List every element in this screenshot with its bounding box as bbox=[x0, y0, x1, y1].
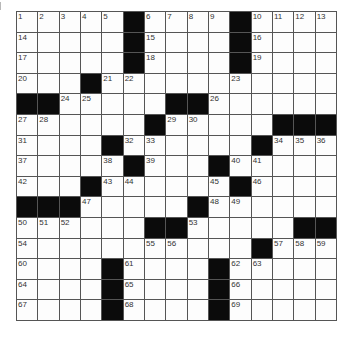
grid-cell[interactable] bbox=[273, 300, 293, 320]
grid-cell[interactable]: 42 bbox=[17, 177, 37, 197]
grid-cell[interactable]: 10 bbox=[252, 12, 272, 32]
grid-cell[interactable] bbox=[273, 197, 293, 217]
grid-cell[interactable]: 27 bbox=[17, 115, 37, 135]
grid-cell[interactable]: 57 bbox=[273, 239, 293, 259]
grid-cell[interactable]: 35 bbox=[294, 136, 314, 156]
grid-cell[interactable]: 63 bbox=[252, 259, 272, 279]
grid-cell[interactable]: 33 bbox=[145, 136, 165, 156]
grid-cell[interactable] bbox=[166, 259, 186, 279]
grid-cell[interactable] bbox=[188, 136, 208, 156]
grid-cell[interactable]: 11 bbox=[273, 12, 293, 32]
grid-cell[interactable] bbox=[166, 197, 186, 217]
grid-cell[interactable]: 32 bbox=[124, 136, 144, 156]
grid-cell[interactable] bbox=[124, 239, 144, 259]
grid-cell[interactable] bbox=[81, 280, 101, 300]
grid-cell[interactable] bbox=[102, 218, 122, 238]
grid-cell[interactable]: 7 bbox=[166, 12, 186, 32]
grid-cell[interactable]: 50 bbox=[17, 218, 37, 238]
grid-cell[interactable] bbox=[252, 300, 272, 320]
grid-cell[interactable] bbox=[81, 136, 101, 156]
grid-cell[interactable] bbox=[209, 33, 229, 53]
grid-cell[interactable] bbox=[209, 115, 229, 135]
grid-cell[interactable]: 37 bbox=[17, 156, 37, 176]
grid-cell[interactable] bbox=[188, 177, 208, 197]
grid-cell[interactable]: 53 bbox=[188, 218, 208, 238]
grid-cell[interactable] bbox=[38, 259, 58, 279]
grid-cell[interactable] bbox=[102, 33, 122, 53]
grid-cell[interactable] bbox=[81, 218, 101, 238]
grid-cell[interactable] bbox=[81, 156, 101, 176]
grid-cell[interactable]: 31 bbox=[17, 136, 37, 156]
grid-cell[interactable] bbox=[273, 74, 293, 94]
grid-cell[interactable]: 2 bbox=[38, 12, 58, 32]
grid-cell[interactable] bbox=[209, 239, 229, 259]
grid-cell[interactable] bbox=[38, 33, 58, 53]
grid-cell[interactable] bbox=[252, 218, 272, 238]
grid-cell[interactable] bbox=[316, 156, 336, 176]
grid-cell[interactable] bbox=[81, 115, 101, 135]
grid-cell[interactable] bbox=[273, 94, 293, 114]
grid-cell[interactable] bbox=[294, 53, 314, 73]
grid-cell[interactable] bbox=[145, 280, 165, 300]
grid-cell[interactable] bbox=[188, 53, 208, 73]
grid-cell[interactable] bbox=[60, 300, 80, 320]
grid-cell[interactable] bbox=[188, 74, 208, 94]
grid-cell[interactable] bbox=[294, 94, 314, 114]
grid-cell[interactable] bbox=[145, 94, 165, 114]
grid-cell[interactable] bbox=[60, 33, 80, 53]
grid-cell[interactable]: 46 bbox=[252, 177, 272, 197]
grid-cell[interactable] bbox=[166, 280, 186, 300]
grid-cell[interactable] bbox=[273, 177, 293, 197]
grid-cell[interactable] bbox=[124, 94, 144, 114]
grid-cell[interactable]: 8 bbox=[188, 12, 208, 32]
grid-cell[interactable]: 39 bbox=[145, 156, 165, 176]
grid-cell[interactable] bbox=[294, 300, 314, 320]
grid-cell[interactable] bbox=[209, 74, 229, 94]
grid-cell[interactable] bbox=[294, 280, 314, 300]
grid-cell[interactable]: 45 bbox=[209, 177, 229, 197]
grid-cell[interactable] bbox=[38, 74, 58, 94]
grid-cell[interactable] bbox=[316, 53, 336, 73]
grid-cell[interactable]: 9 bbox=[209, 12, 229, 32]
grid-cell[interactable]: 19 bbox=[252, 53, 272, 73]
grid-cell[interactable]: 68 bbox=[124, 300, 144, 320]
grid-cell[interactable]: 38 bbox=[102, 156, 122, 176]
grid-cell[interactable]: 28 bbox=[38, 115, 58, 135]
grid-cell[interactable]: 12 bbox=[294, 12, 314, 32]
grid-cell[interactable]: 23 bbox=[230, 74, 250, 94]
grid-cell[interactable] bbox=[102, 115, 122, 135]
grid-cell[interactable]: 64 bbox=[17, 280, 37, 300]
grid-cell[interactable] bbox=[60, 177, 80, 197]
grid-cell[interactable]: 1 bbox=[17, 12, 37, 32]
grid-cell[interactable] bbox=[38, 177, 58, 197]
grid-cell[interactable] bbox=[60, 280, 80, 300]
grid-cell[interactable]: 20 bbox=[17, 74, 37, 94]
grid-cell[interactable]: 17 bbox=[17, 53, 37, 73]
grid-cell[interactable] bbox=[81, 239, 101, 259]
grid-cell[interactable]: 52 bbox=[60, 218, 80, 238]
grid-cell[interactable]: 4 bbox=[81, 12, 101, 32]
grid-cell[interactable] bbox=[294, 74, 314, 94]
grid-cell[interactable]: 56 bbox=[166, 239, 186, 259]
grid-cell[interactable] bbox=[81, 259, 101, 279]
grid-cell[interactable] bbox=[145, 197, 165, 217]
grid-cell[interactable] bbox=[124, 115, 144, 135]
grid-cell[interactable] bbox=[124, 218, 144, 238]
grid-cell[interactable] bbox=[316, 94, 336, 114]
grid-cell[interactable] bbox=[60, 259, 80, 279]
grid-cell[interactable]: 18 bbox=[145, 53, 165, 73]
grid-cell[interactable]: 3 bbox=[60, 12, 80, 32]
grid-cell[interactable] bbox=[102, 239, 122, 259]
grid-cell[interactable]: 26 bbox=[209, 94, 229, 114]
grid-cell[interactable]: 47 bbox=[81, 197, 101, 217]
grid-cell[interactable]: 58 bbox=[294, 239, 314, 259]
grid-cell[interactable] bbox=[273, 33, 293, 53]
grid-cell[interactable]: 60 bbox=[17, 259, 37, 279]
grid-cell[interactable] bbox=[316, 33, 336, 53]
grid-cell[interactable] bbox=[273, 218, 293, 238]
grid-cell[interactable] bbox=[316, 259, 336, 279]
grid-cell[interactable] bbox=[316, 177, 336, 197]
grid-cell[interactable]: 65 bbox=[124, 280, 144, 300]
grid-cell[interactable]: 21 bbox=[102, 74, 122, 94]
grid-cell[interactable] bbox=[188, 239, 208, 259]
